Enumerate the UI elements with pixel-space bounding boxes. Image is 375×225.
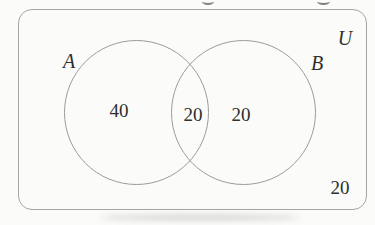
set-a-only-value: 40 bbox=[110, 101, 129, 120]
set-b-only-value: 20 bbox=[232, 105, 251, 124]
outside-sets-value: 20 bbox=[331, 178, 350, 197]
venn-diagram-figure: U A B 40 20 20 20 bbox=[0, 0, 375, 225]
set-a-label: A bbox=[63, 51, 75, 71]
cropped-caption-glyph-mark bbox=[317, 0, 330, 5]
scan-shadow-artifact bbox=[100, 215, 300, 220]
universe-label: U bbox=[338, 28, 352, 48]
cropped-caption-glyph-mark bbox=[202, 0, 214, 5]
intersection-value: 20 bbox=[184, 105, 203, 124]
set-b-label: B bbox=[311, 53, 323, 73]
